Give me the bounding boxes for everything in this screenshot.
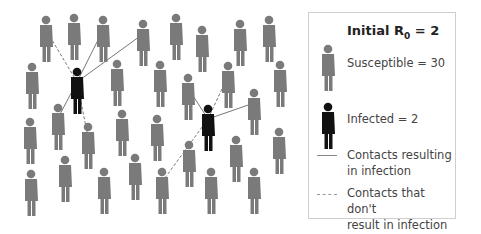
susceptible-person-icon: [248, 168, 261, 214]
people: [24, 14, 287, 216]
susceptible-person-icon: [24, 118, 37, 164]
susceptible-person-icon: [205, 168, 218, 214]
susceptible-person-icon: [151, 115, 164, 161]
susceptible-person-icon: [40, 16, 53, 62]
contact-network-diagram: [0, 0, 300, 234]
susceptible-glyph: [322, 45, 335, 91]
susceptible-person-icon: [156, 168, 169, 214]
dashed-line-label: Contacts that don'tresult in infection: [347, 185, 455, 233]
susceptible-person-icon: [234, 20, 247, 66]
susceptible-person-icon: [116, 110, 129, 156]
susceptible-person-icon: [59, 156, 72, 202]
susceptible-person-icon: [263, 16, 276, 62]
susceptible-person-icon: [82, 123, 95, 169]
susceptible-person-icon: [25, 170, 38, 216]
susceptible-person-icon: [274, 61, 287, 107]
susceptible-person-icon: [230, 136, 243, 182]
susceptible-person-icon: [222, 62, 235, 108]
susceptible-person-icon: [68, 14, 81, 60]
solid-line-icon: [317, 155, 337, 156]
dashed-line-icon: [317, 194, 337, 195]
susceptible-person-icon: [97, 16, 110, 62]
susceptible-person-icon: [98, 168, 111, 214]
susceptible-person-icon: [52, 104, 65, 150]
susceptible-person-icon: [196, 26, 209, 72]
susceptible-label: Susceptible = 30: [347, 55, 445, 71]
susceptible-person-icon: [170, 14, 183, 60]
susceptible-person-icon: [111, 60, 124, 106]
susceptible-person-icon: [183, 141, 196, 187]
susceptible-person-icon: [182, 74, 195, 120]
infected-person-icon: [317, 101, 339, 151]
susceptible-person-icon: [154, 61, 167, 107]
infected-glyph: [322, 103, 335, 149]
susceptible-person-icon: [273, 128, 286, 174]
susceptible-person-icon: [26, 63, 39, 109]
susceptible-person-icon: [129, 154, 142, 200]
infected-person-icon: [202, 105, 215, 151]
legend: Initial R0 = 2 Susceptible = 30 Infected…: [308, 12, 456, 219]
solid-line-label: Contacts resultingin infection: [347, 147, 452, 179]
infected-label: Infected = 2: [347, 111, 418, 127]
susceptible-person-icon: [137, 20, 150, 66]
solid-contact-line: [77, 34, 143, 82]
legend-title: Initial R0 = 2: [347, 23, 439, 41]
susceptible-person-icon: [248, 89, 261, 135]
susceptible-person-icon: [317, 43, 339, 93]
